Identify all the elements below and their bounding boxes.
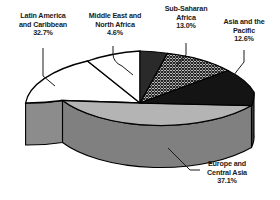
slice-label-europe-and-central-asia: Europe and Central Asia 37.1% (196, 160, 258, 186)
slice-label-percent: 37.1% (196, 177, 258, 186)
slice-label-middle-east-and-north-africa: Middle East and North Africa 4.6% (75, 12, 155, 38)
slice-label-latin-america-and-caribbean: Latin America and Caribbean 32.7% (4, 12, 82, 38)
leader-line-asia-and-the-pacific (233, 50, 244, 76)
slice-label-percent: 32.7% (4, 29, 82, 38)
slice-label-asia-and-the-pacific: Asia and the Pacific 12.6% (213, 18, 275, 44)
slice-label-sub-saharan-africa: Sub-Saharan Africa 13.0% (153, 5, 219, 31)
slice-label-percent: 4.6% (75, 29, 155, 38)
pie-chart-figure: Latin America and Caribbean 32.7% Middle… (0, 0, 280, 200)
side-wall-latin-america-and-caribbean (26, 101, 63, 146)
slice-label-percent: 12.6% (213, 35, 275, 44)
slice-label-percent: 13.0% (153, 22, 219, 31)
